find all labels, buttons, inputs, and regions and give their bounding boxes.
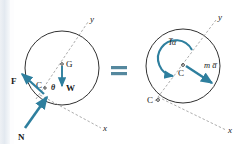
left-x-axis-line [40, 95, 101, 128]
right-contact-point [157, 99, 160, 102]
figure-canvas: y x G W θ C F N = [0, 0, 243, 144]
normal-vector-arrow [25, 97, 47, 128]
left-contact-point [44, 87, 46, 89]
left-center-point [61, 63, 64, 66]
right-x-axis-label: x [227, 125, 232, 135]
left-diagram-group: y x G W θ C F N [11, 14, 107, 142]
equals-bar-bottom [111, 72, 127, 75]
friction-label: F [11, 76, 17, 86]
ma-label: m a̅ [204, 60, 218, 70]
theta-angle-label: θ [51, 83, 56, 92]
left-x-axis-label: x [102, 123, 107, 133]
equals-bar-top [111, 66, 127, 69]
equals-sign-group: = [111, 66, 127, 75]
left-y-axis-label: y [89, 14, 94, 24]
normal-label: N [18, 132, 25, 142]
moment-label: I̅α [168, 37, 177, 47]
left-center-label: G [66, 59, 73, 69]
right-y-axis-label: y [217, 12, 222, 22]
physics-figure: y x G W θ C F N = [0, 0, 243, 144]
right-diagram-group: y x C I̅α m a̅ C [146, 12, 232, 135]
weight-label: W [66, 83, 75, 93]
right-contact-label: C [147, 95, 153, 105]
right-center-label: C [178, 68, 184, 78]
